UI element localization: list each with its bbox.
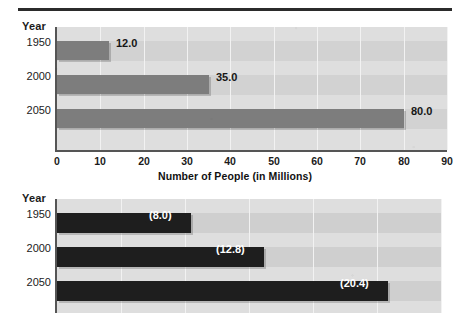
top-chart-xtick-90: 90 bbox=[434, 155, 460, 167]
top-chart-gridline bbox=[274, 27, 275, 150]
top-chart-xtick-80: 80 bbox=[391, 155, 417, 167]
bottom-chart-value-label-2000: (12.8) bbox=[216, 243, 245, 255]
top-chart-xtick-0: 0 bbox=[44, 155, 70, 167]
bottom-chart-bar-2050 bbox=[57, 281, 388, 301]
top-chart-gridline bbox=[447, 27, 448, 150]
bottom-chart-value-label-1950: (8.0) bbox=[149, 209, 172, 221]
top-chart-xtick-50: 50 bbox=[261, 155, 287, 167]
bottom-chart-plot-area bbox=[57, 199, 441, 313]
top-chart-xtick-40: 40 bbox=[217, 155, 243, 167]
top-chart-x-axis-line bbox=[55, 150, 447, 152]
bottom-chart-y-axis-line bbox=[55, 199, 57, 313]
top-chart-gridline bbox=[360, 27, 361, 150]
top-chart-x-axis-title: Number of People (in Millions) bbox=[0, 170, 470, 182]
top-chart-xtick-30: 30 bbox=[174, 155, 200, 167]
top-chart-band bbox=[57, 129, 447, 150]
top-chart-category-2000: 2000 bbox=[8, 70, 51, 82]
top-chart-xtick-70: 70 bbox=[347, 155, 373, 167]
top-chart-gridline bbox=[317, 27, 318, 150]
top-chart-bar-2000 bbox=[57, 75, 209, 94]
top-chart-xtick-10: 10 bbox=[87, 155, 113, 167]
top-chart-value-label-2000: 35.0 bbox=[216, 71, 237, 83]
bottom-chart-category-2000: 2000 bbox=[8, 242, 51, 254]
top-chart-value-label-2050: 80.0 bbox=[411, 105, 432, 117]
top-chart-bar-2050 bbox=[57, 109, 404, 128]
bottom-chart-gridline bbox=[441, 199, 442, 313]
bottom-chart-value-label-2050: (20.4) bbox=[340, 277, 369, 289]
bottom-chart-category-1950: 1950 bbox=[8, 208, 51, 220]
top-chart-band bbox=[57, 61, 447, 75]
top-chart-category-2050: 2050 bbox=[8, 104, 51, 116]
top-chart-xtick-60: 60 bbox=[304, 155, 330, 167]
top-chart-xtick-20: 20 bbox=[131, 155, 157, 167]
top-chart-bar-1950 bbox=[57, 41, 109, 60]
top-chart-band bbox=[57, 95, 447, 109]
top-chart-y-axis-line bbox=[55, 27, 57, 152]
bottom-chart-category-2050: 2050 bbox=[8, 276, 51, 288]
top-chart-year-axis-title: Year bbox=[22, 20, 46, 32]
bottom-chart-year-axis-title: Year bbox=[22, 192, 46, 204]
top-chart-value-label-1950: 12.0 bbox=[116, 37, 137, 49]
header-divider-rule bbox=[18, 8, 452, 11]
top-chart-gridline bbox=[404, 27, 405, 150]
top-chart-category-1950: 1950 bbox=[8, 36, 51, 48]
top-chart-gridline bbox=[230, 27, 231, 150]
